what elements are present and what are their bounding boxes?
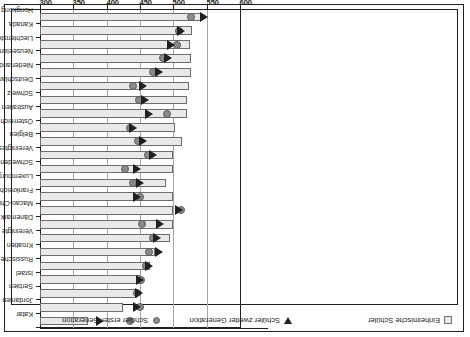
marker-second-generation xyxy=(167,40,175,50)
bar xyxy=(40,275,140,284)
category-tick xyxy=(36,203,40,204)
category-tick xyxy=(36,106,40,107)
legend-symbol-second xyxy=(284,317,292,324)
marker-second-generation xyxy=(200,12,208,22)
category-label: Australien xyxy=(2,104,33,111)
category-tick xyxy=(36,161,40,162)
category-tick xyxy=(36,50,40,51)
category-tick xyxy=(36,230,40,231)
category-label: Macao-China xyxy=(0,200,33,207)
category-tick xyxy=(36,64,40,65)
marker-second-generation xyxy=(155,247,163,257)
marker-second-generation xyxy=(177,26,185,36)
value-axis-label: 550 xyxy=(206,0,219,7)
category-label: Russische Föderation xyxy=(0,256,33,263)
category-tick xyxy=(36,175,40,176)
marker-second-generation xyxy=(133,302,141,312)
gridline xyxy=(207,10,208,328)
category-tick xyxy=(36,78,40,79)
category-tick xyxy=(36,37,40,38)
bar xyxy=(40,248,155,257)
category-tick xyxy=(36,147,40,148)
legend-symbol-native xyxy=(444,316,452,324)
legend-label-native: Einheimische Schüler xyxy=(368,316,440,325)
bar xyxy=(40,165,173,174)
marker-second-generation xyxy=(164,53,172,63)
bar xyxy=(40,179,166,188)
category-label: Serbien xyxy=(9,283,33,290)
category-label: Jordanien xyxy=(2,297,33,304)
legend-symbol-first xyxy=(153,317,160,324)
bar xyxy=(40,192,173,201)
bar xyxy=(40,220,173,229)
marker-first-generation xyxy=(121,165,129,173)
category-label: Schweden xyxy=(0,159,33,166)
category-tick xyxy=(36,120,40,121)
category-tick xyxy=(36,286,40,287)
value-axis-label: 350 xyxy=(73,0,86,7)
marker-first-generation xyxy=(163,110,171,118)
marker-second-generation xyxy=(175,205,183,215)
axis-end-line xyxy=(240,10,241,328)
legend-label-second: Schüler zweiter Generation xyxy=(190,316,280,325)
marker-second-generation xyxy=(133,164,141,174)
category-label: Österreich xyxy=(1,118,33,125)
bar xyxy=(40,26,192,35)
category-tick xyxy=(36,299,40,300)
marker-second-generation xyxy=(156,219,164,229)
category-tick xyxy=(36,272,40,273)
category-label: Deutschland xyxy=(0,76,33,83)
category-label: Kroatien xyxy=(7,242,33,249)
bar xyxy=(40,68,191,77)
bar xyxy=(40,96,187,105)
category-label: Vereinigtes Königreich xyxy=(0,145,33,152)
bar xyxy=(40,13,202,22)
category-label: Kanada xyxy=(9,21,33,28)
marker-second-generation xyxy=(145,109,153,119)
category-label: Schweiz xyxy=(7,90,33,97)
category-tick xyxy=(36,216,40,217)
bar xyxy=(40,137,182,146)
value-axis-label: 400 xyxy=(106,0,119,7)
marker-second-generation xyxy=(153,233,161,243)
value-axis-label: 600 xyxy=(240,0,253,7)
chart-frame: 300350400450500550600KatarJordanienSerbi… xyxy=(4,4,464,332)
chart-legend: Einheimische SchülerSchüler zweiter Gene… xyxy=(10,312,460,328)
bar xyxy=(40,123,175,132)
marker-second-generation xyxy=(155,67,163,77)
bar xyxy=(40,303,123,312)
category-tick xyxy=(36,133,40,134)
value-axis-label: 300 xyxy=(40,0,53,7)
marker-second-generation xyxy=(136,275,144,285)
marker-second-generation xyxy=(136,178,144,188)
category-tick xyxy=(36,9,40,10)
category-label: Liechtenstein xyxy=(0,35,33,42)
category-label: Hongkong xyxy=(1,7,33,14)
category-label: Vereinigte Staaten xyxy=(0,228,33,235)
category-label: Luxemburg xyxy=(0,173,33,180)
marker-second-generation xyxy=(139,81,147,91)
bar xyxy=(40,82,189,91)
legend-label-first: Schüler erster Generation xyxy=(62,316,148,325)
category-label: Belgien xyxy=(10,131,33,138)
category-tick xyxy=(36,244,40,245)
marker-second-generation xyxy=(129,123,137,133)
category-label: Niederlande xyxy=(0,62,33,69)
marker-second-generation xyxy=(145,261,153,271)
marker-second-generation xyxy=(139,136,147,146)
chart-canvas: 300350400450500550600KatarJordanienSerbi… xyxy=(12,10,458,328)
category-label: Frankreich xyxy=(0,187,33,194)
marker-second-generation xyxy=(141,95,149,105)
marker-second-generation xyxy=(135,288,143,298)
category-label: Dänemark xyxy=(1,214,33,221)
value-axis-label: 500 xyxy=(173,0,186,7)
bar xyxy=(40,206,173,215)
category-tick xyxy=(36,258,40,259)
category-tick xyxy=(36,92,40,93)
marker-second-generation xyxy=(133,192,141,202)
bar xyxy=(40,289,137,298)
value-axis-label: 450 xyxy=(140,0,153,7)
value-axis xyxy=(40,328,268,329)
bar xyxy=(40,262,150,271)
rotated-chart-wrapper: 300350400450500550600KatarJordanienSerbi… xyxy=(5,5,465,333)
